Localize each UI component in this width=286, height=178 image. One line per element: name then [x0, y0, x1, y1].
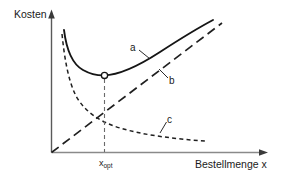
leader-line-c — [160, 122, 167, 133]
leader-line-b — [159, 69, 168, 78]
x-opt-subscript: opt — [104, 162, 113, 169]
chart-plot-area — [0, 0, 286, 178]
leader-line-a — [139, 50, 150, 59]
x-axis-title: Bestellmenge x — [195, 159, 267, 170]
y-axis — [48, 10, 55, 153]
y-axis-title: Kosten — [14, 9, 47, 20]
curve-label-b: b — [169, 76, 175, 86]
x-opt-base: x — [99, 158, 104, 168]
x-axis — [52, 149, 269, 155]
holding-cost-line-b — [52, 23, 223, 153]
x-opt-tick-label: xopt — [99, 159, 113, 168]
curve-label-a: a — [130, 43, 136, 53]
curve-label-c: c — [167, 115, 172, 125]
optimum-point-marker — [101, 72, 107, 78]
cost-quantity-chart: Kosten Bestellmenge x a b c xopt — [0, 0, 286, 178]
